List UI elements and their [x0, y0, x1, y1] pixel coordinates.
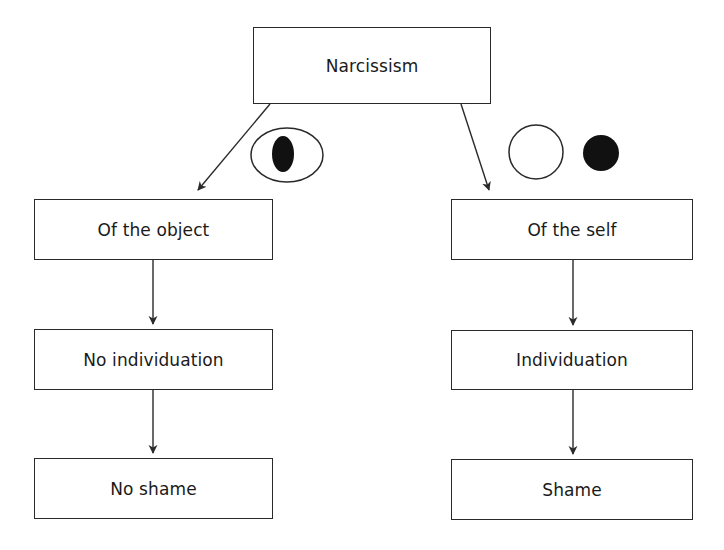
node-no-individuation: No individuation [34, 329, 273, 390]
node-label: Of the self [527, 220, 616, 240]
node-of-the-object: Of the object [34, 199, 273, 260]
node-label: Narcissism [326, 56, 419, 76]
node-no-shame: No shame [34, 458, 273, 519]
node-label: No individuation [83, 350, 223, 370]
node-narcissism: Narcissism [253, 27, 491, 104]
node-label: No shame [110, 479, 196, 499]
filled-circle-icon [583, 135, 619, 171]
arrow-root-to-self [461, 104, 489, 190]
node-shame: Shame [451, 459, 693, 520]
node-of-the-self: Of the self [451, 199, 693, 260]
node-label: Shame [542, 480, 602, 500]
eye-icon [251, 128, 323, 182]
node-individuation: Individuation [451, 330, 693, 390]
open-circle-icon [509, 125, 563, 179]
node-label: Individuation [516, 350, 628, 370]
node-label: Of the object [98, 220, 210, 240]
